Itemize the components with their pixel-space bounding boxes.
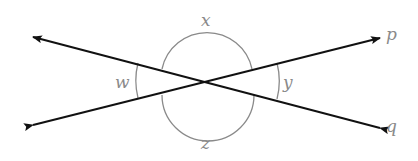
angle-diagram: x y z w p q	[0, 0, 418, 161]
angle-label-w: w	[115, 74, 130, 91]
arc-w	[136, 63, 138, 98]
line-label-p: p	[386, 26, 397, 43]
angle-label-y: y	[283, 74, 293, 91]
angle-label-x: x	[201, 12, 211, 29]
line-label-q: q	[386, 118, 397, 135]
lines	[33, 37, 380, 128]
angle-arcs	[136, 33, 279, 141]
angle-label-z: z	[201, 135, 210, 152]
arc-x	[162, 33, 252, 69]
arc-y	[277, 63, 279, 99]
